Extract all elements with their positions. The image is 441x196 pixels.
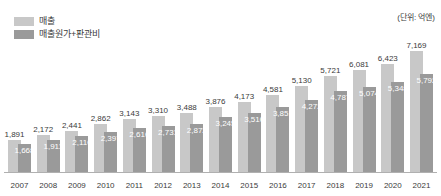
x-axis-tick-label: 2007 [8, 181, 31, 190]
bar-group: 2,8622,3972010 [94, 0, 117, 196]
x-axis-tick-label: 2020 [381, 181, 404, 190]
bar-cost-sga: 5,348 [391, 82, 404, 172]
bar-group: 3,4882,8722013 [180, 0, 203, 196]
bar-value-label: 1,911 [43, 142, 62, 151]
bar-group: 2,4412,1102009 [65, 0, 88, 196]
x-axis-tick-label: 2013 [180, 181, 203, 190]
bar-value-label: 3,510 [244, 115, 264, 124]
bar-value-label: 2,441 [62, 121, 82, 130]
bar-group: 4,1733,5102015 [238, 0, 261, 196]
bar-group: 6,0815,0742019 [353, 0, 376, 196]
bar-value-label: 2,731 [158, 128, 178, 137]
bar-value-label: 4,173 [234, 92, 254, 101]
bar-group: 3,1432,6162011 [123, 0, 146, 196]
bar-cost-sga: 5,792 [420, 74, 433, 172]
bar-cost-sga: 3,245 [219, 117, 232, 172]
bar-value-label: 2,616 [129, 130, 149, 139]
bar-value-label: 3,851 [273, 109, 293, 118]
bar-value-label: 5,074 [359, 89, 379, 98]
bar-cost-sga: 3,851 [276, 107, 289, 172]
bar-value-label: 1,891 [4, 130, 24, 139]
bar-cost-sga: 2,872 [190, 124, 203, 172]
bar-value-label: 5,792 [416, 76, 436, 85]
bar-cost-sga: 2,397 [104, 132, 117, 172]
bar-value-label: 6,081 [349, 60, 369, 69]
bar-value-label: 1,668 [14, 146, 34, 155]
x-axis-tick-label: 2015 [238, 181, 261, 190]
bar-group: 7,1695,7922021 [410, 0, 433, 196]
bar-cost-sga: 1,911 [47, 140, 60, 172]
bar-value-label: 2,110 [72, 138, 91, 147]
bar-value-label: 3,310 [148, 106, 168, 115]
x-axis-tick-label: 2012 [152, 181, 175, 190]
bar-value-label: 5,348 [388, 84, 408, 93]
bar-group: 1,8911,6682007 [8, 0, 31, 196]
bar-group: 5,7214,7872018 [324, 0, 347, 196]
bar-value-label: 2,397 [101, 134, 121, 143]
bar-value-label: 4,581 [263, 85, 283, 94]
bar-group: 6,4235,3482020 [381, 0, 404, 196]
bar-group: 2,1721,9112008 [37, 0, 60, 196]
x-axis-tick-label: 2008 [37, 181, 60, 190]
bar-value-label: 3,488 [177, 103, 197, 112]
bar-value-label: 3,876 [205, 97, 225, 106]
bar-value-label: 3,143 [119, 109, 139, 118]
bar-cost-sga: 5,074 [363, 87, 376, 172]
x-axis-tick-label: 2009 [65, 181, 88, 190]
x-axis-tick-label: 2011 [123, 181, 146, 190]
x-axis-tick-label: 2018 [324, 181, 347, 190]
x-axis-tick-label: 2021 [410, 181, 433, 190]
bar-cost-sga: 2,616 [133, 128, 146, 172]
x-axis-tick-label: 2014 [209, 181, 232, 190]
bar-value-label: 5,721 [320, 66, 340, 75]
bar-value-label: 4,272 [302, 102, 322, 111]
bar-cost-sga: 2,731 [162, 126, 175, 172]
bar-cost-sga: 3,510 [248, 113, 261, 172]
bar-value-label: 5,130 [292, 76, 312, 85]
bar-value-label: 7,169 [406, 41, 426, 50]
bar-value-label: 3,245 [215, 119, 235, 128]
x-axis-tick-label: 2019 [353, 181, 376, 190]
bar-group: 3,8763,2452014 [209, 0, 232, 196]
bar-group: 4,5813,8512016 [266, 0, 289, 196]
bar-value-label: 2,872 [187, 126, 207, 135]
bar-value-label: 2,172 [33, 125, 53, 134]
bar-cost-sga: 1,668 [18, 144, 31, 172]
bar-value-label: 2,862 [91, 114, 111, 123]
bar-cost-sga: 4,787 [334, 91, 347, 172]
bar-cost-sga: 2,110 [75, 136, 88, 172]
x-axis-tick-label: 2017 [295, 181, 318, 190]
bar-group: 3,3102,7312012 [152, 0, 175, 196]
x-axis-tick-label: 2010 [94, 181, 117, 190]
bar-cost-sga: 4,272 [305, 100, 318, 172]
bar-chart-plot-area: 1,8911,66820072,1721,91120082,4412,11020… [0, 0, 441, 196]
bar-value-label: 6,423 [378, 54, 398, 63]
x-axis-tick-label: 2016 [266, 181, 289, 190]
bar-value-label: 4,787 [330, 93, 350, 102]
bar-group: 5,1304,2722017 [295, 0, 318, 196]
